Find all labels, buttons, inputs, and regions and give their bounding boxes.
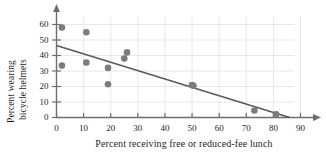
x-tick-label: 30 (129, 124, 147, 133)
data-point (251, 107, 258, 114)
data-point (105, 65, 112, 72)
gridlines (57, 17, 301, 118)
y-tick-label: 60 (33, 20, 49, 29)
x-tick-label: 70 (237, 124, 255, 133)
data-point (273, 111, 280, 118)
x-tick-label: 90 (292, 124, 310, 133)
x-tick-label: 80 (264, 124, 282, 133)
y-tick-label: 20 (33, 82, 49, 91)
y-tick-label: 40 (33, 51, 49, 60)
data-point (105, 81, 112, 88)
x-axis-arrowhead (313, 114, 321, 121)
data-point (121, 55, 128, 62)
y-axis-title-line-1: Percent wearing (6, 60, 16, 123)
y-tick-label: 50 (33, 36, 49, 45)
x-tick-label: 40 (156, 124, 174, 133)
data-point (59, 24, 66, 31)
x-axis-title: Percent receiving free or reduced-fee lu… (56, 138, 312, 150)
data-point (124, 49, 131, 56)
data-point (83, 59, 90, 66)
y-axis-title-line-2: bicycle helmets (18, 59, 28, 120)
data-point (59, 62, 66, 69)
y-tick-label: 0 (33, 113, 49, 122)
data-point (83, 29, 90, 36)
axes (53, 4, 321, 121)
y-tick-label: 30 (33, 67, 49, 76)
x-tick-label: 60 (210, 124, 228, 133)
x-tick-label: 10 (75, 124, 93, 133)
x-tick-label: 50 (183, 124, 201, 133)
y-axis-title: Percent wearing bicycle helmets (0, 10, 30, 122)
data-point (190, 82, 197, 89)
x-tick-label: 20 (102, 124, 120, 133)
regression-line (57, 45, 290, 117)
x-tick-label: 0 (48, 124, 66, 133)
y-tick-label: 10 (33, 98, 49, 107)
trend-line (57, 45, 290, 117)
y-axis-arrowhead (53, 4, 60, 12)
scatter-plot-figure: Percent wearing bicycle helmets Percent … (0, 0, 326, 156)
